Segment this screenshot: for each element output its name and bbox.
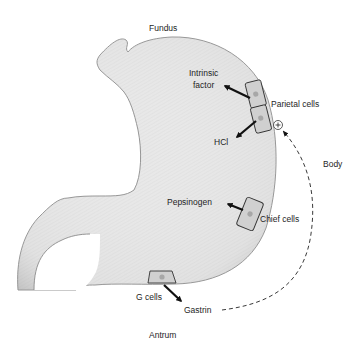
stomach-illustration xyxy=(0,0,364,348)
cell-label-chief: Chief cells xyxy=(260,214,299,224)
g-cell xyxy=(148,271,176,283)
stomach-shape xyxy=(18,37,276,290)
secretion-label-hcl: HCl xyxy=(214,137,228,147)
cell-label-g: G cells xyxy=(136,292,162,302)
region-label-fundus: Fundus xyxy=(149,23,177,33)
secretion-label-pepsinogen: Pepsinogen xyxy=(167,197,212,207)
region-label-body: Body xyxy=(323,159,342,169)
gastrin-arrow xyxy=(164,285,181,301)
cell-label-parietal: Parietal cells xyxy=(271,99,319,109)
secretion-label-intrinsic-factor-line1: Intrinsic xyxy=(189,68,218,78)
secretion-label-intrinsic-factor-line2: factor xyxy=(193,80,214,90)
region-label-antrum: Antrum xyxy=(149,330,176,340)
stomach-diagram: Fundus Intrinsic factor Parietal cells H… xyxy=(0,0,364,348)
secretion-label-gastrin: Gastrin xyxy=(184,305,211,315)
stimulation-plus-icon xyxy=(274,121,283,130)
